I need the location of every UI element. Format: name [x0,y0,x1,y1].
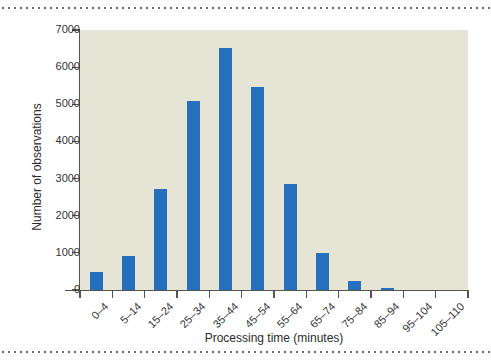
x-tick-mark [176,290,177,298]
bar [187,101,200,290]
bar [381,288,394,290]
x-tick-mark [144,290,145,298]
x-tick-mark [273,290,274,298]
histogram-figure: 01000200030004000500060007000 0–45–1415–… [0,0,491,362]
x-tick-mark [370,290,371,298]
bar [348,281,361,290]
x-tick-mark [209,290,210,298]
bar [90,272,103,290]
x-tick-mark [467,290,468,298]
x-tick-mark [403,290,404,298]
y-axis-label: Number of observations [30,67,44,267]
x-tick-mark [435,290,436,298]
bar [154,189,167,290]
top-dotted-rule [0,7,491,9]
plot-area [80,30,468,290]
x-tick-mark [338,290,339,298]
x-axis-label: Processing time (minutes) [80,331,468,345]
bottom-dotted-rule [0,351,491,353]
bar [284,184,297,290]
x-tick-mark [79,290,80,298]
bar [316,253,329,290]
y-tick-label: 7000 [34,24,80,35]
bar [219,48,232,290]
x-tick-mark [241,290,242,298]
x-tick-mark [112,290,113,298]
bar [251,87,264,290]
x-tick-mark [306,290,307,298]
bar [122,256,135,290]
y-tick-label: 0 [34,284,80,295]
